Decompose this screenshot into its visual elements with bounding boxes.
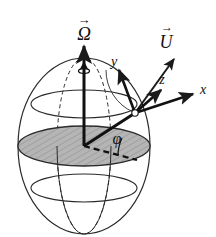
y-axis (119, 70, 135, 113)
u-vector (135, 59, 174, 113)
x-label: x (199, 82, 207, 97)
u-label: U (160, 32, 174, 52)
rotating-sphere-diagram: → Ω → U y z x φ (0, 0, 216, 237)
meridian-arc-accent (106, 70, 133, 112)
omega-label: Ω (77, 23, 91, 44)
phi-label: φ (113, 130, 122, 148)
y-label: y (109, 54, 118, 69)
x-axis (135, 94, 193, 113)
lower-latitude-line (31, 174, 137, 202)
origin-point-marker (132, 110, 138, 116)
z-label: z (158, 72, 165, 87)
